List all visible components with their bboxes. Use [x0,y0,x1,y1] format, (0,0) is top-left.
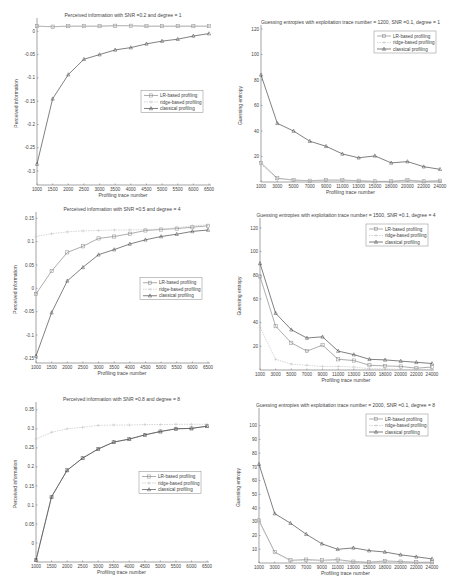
y-tick-label: 100 [250,249,258,254]
y-tick-label: -0.2 [27,122,35,127]
y-tick-label: 80 [252,451,258,456]
y-tick-label: 60 [254,103,260,108]
x-tick-label: 24000 [434,184,447,189]
y-tick-label: -0.05 [24,309,35,314]
y-tick-label: 0.05 [25,263,34,268]
chart-guessing-entropy-2000: Guessing entropies with exploitation tra… [235,402,439,576]
legend-entry: ridge-based profiling [385,423,427,428]
legend: LR-based profilingridge-based profilingc… [366,414,428,436]
y-tick-label: 60 [253,297,259,302]
x-tick-label: 18000 [385,184,398,189]
x-tick-label: 1500 [47,365,58,370]
legend: LR-based profilingridge-based profilingc… [139,472,201,494]
chart-title: Guessing entropies with exploitation tra… [256,402,435,408]
y-tick-label: -0.05 [25,52,36,57]
y-axis-label: Guessing entropy [236,276,242,316]
x-axis-label: Profiling trace number [326,189,375,195]
legend-entry: LR-based profiling [158,474,196,479]
series-line [259,522,432,563]
legend-entry: LR-based profiling [385,227,423,232]
chart-title: Guessing entropies with exploitation tra… [256,212,435,218]
x-tick-label: 6500 [204,187,215,192]
y-tick-label: -0.25 [25,145,36,150]
series-line [260,263,432,363]
x-tick-label: 1000 [254,565,265,570]
chart-title: Perceived information with SNR =0.2 and … [64,12,181,18]
y-tick-label: 0 [31,286,34,291]
chart-perceived-info-snr05: Perceived information with SNR =0.5 and … [12,206,214,376]
legend-entry: LR-based profiling [160,93,198,98]
y-axis-label: Perceived information [12,460,18,509]
y-tick-label: 0.05 [25,522,34,527]
y-tick-label: 0.3 [28,426,35,431]
x-tick-label: 1500 [48,187,59,192]
y-tick-label: 0.2 [28,464,35,469]
series-line [260,327,432,369]
x-tick-label: 5000 [155,564,166,569]
legend-entry: ridge-based profiling [393,40,435,45]
x-tick-label: 1000 [31,564,42,569]
y-tick-label: -0.3 [27,169,35,174]
y-tick-label: 0.15 [25,216,34,221]
x-tick-label: 5000 [285,565,296,570]
x-tick-label: 6000 [188,187,199,192]
y-tick-label: 0.25 [25,445,34,450]
x-tick-label: 7000 [301,565,312,570]
x-tick-label: 22000 [417,184,430,189]
y-tick-label: 20 [254,154,260,159]
x-axis-label: Profiling trace number [97,569,146,575]
y-tick-label: 120 [250,226,258,231]
y-axis-label: Perceived information [12,265,18,314]
legend-entry: classical profiling [385,240,420,245]
x-axis-label: Profiling trace number [321,570,370,576]
y-tick-label: 60 [252,478,258,483]
legend-entry: ridge-based profiling [160,100,202,105]
y-tick-label: 100 [251,52,259,57]
x-tick-label: 2500 [78,564,89,569]
y-tick-label: 20 [252,533,258,538]
x-tick-label: 1000 [32,187,43,192]
y-tick-label: -0.15 [24,356,35,361]
y-tick-label: 120 [251,27,259,32]
series-line [259,464,432,559]
chart-title: Guessing entropies with exploitation tra… [261,19,440,25]
y-axis-label: Guessing entropy [237,85,243,125]
y-tick-label: -0.15 [25,99,36,104]
y-tick-label: 0.15 [25,484,34,489]
chart-title: Perceived information with SNR =0.5 and … [63,206,180,212]
y-axis-label: Perceived information [13,79,19,128]
legend-entry: LR-based profiling [393,34,431,39]
legend: LR-based profilingridge-based profilingc… [366,224,428,246]
series-line [260,277,432,369]
y-tick-label: 40 [254,129,260,134]
x-tick-label: 7000 [302,372,313,377]
series-line [261,163,440,182]
x-tick-label: 1000 [256,184,267,189]
x-tick-label: 18000 [379,372,392,377]
legend-entry: classical profiling [159,293,194,298]
x-tick-label: 24000 [426,372,439,377]
x-tick-label: 5000 [157,187,168,192]
x-tick-label: 5000 [156,365,167,370]
x-axis-label: Profiling trace number [322,377,371,383]
x-axis-label: Profiling trace number [98,370,147,376]
x-tick-label: 24000 [426,565,439,570]
x-tick-label: 2000 [62,365,73,370]
y-tick-label: 0 [32,29,35,34]
x-tick-label: 5000 [288,184,299,189]
y-tick-label: -0.1 [27,75,35,80]
legend-entry: classical profiling [393,47,428,52]
legend: LR-based profilingridge-based profilingc… [374,31,436,53]
x-tick-label: 2000 [62,564,73,569]
x-tick-label: 5500 [173,187,184,192]
legend: LR-based profilingridge-based profilingc… [140,278,202,300]
y-tick-label: -0.1 [26,333,34,338]
legend-entry: classical profiling [385,430,420,435]
x-tick-label: 20000 [401,184,414,189]
y-tick-label: 10 [252,547,258,552]
chart-perceived-info-snr02: Perceived information with SNR =0.2 and … [13,12,215,198]
y-tick-label: 0.1 [28,239,35,244]
y-tick-label: 0 [31,541,34,546]
y-tick-label: 20 [253,344,259,349]
x-tick-label: 18000 [378,565,391,570]
